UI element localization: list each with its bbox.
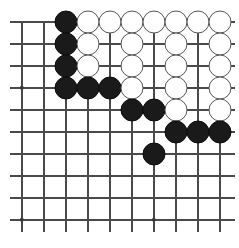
white-stone: [165, 77, 188, 100]
star-point: [20, 218, 24, 222]
white-stone: [209, 11, 232, 34]
black-stone: [143, 99, 166, 122]
white-stone: [99, 11, 122, 34]
black-stone: [55, 33, 78, 56]
white-stone: [121, 55, 144, 78]
black-stone: [209, 121, 232, 144]
black-stone: [165, 121, 188, 144]
white-stone: [209, 55, 232, 78]
black-stone: [187, 121, 210, 144]
star-point: [152, 218, 156, 222]
black-stone: [99, 77, 122, 100]
white-stone: [165, 11, 188, 34]
goban-grid: [0, 0, 239, 248]
grid-line-vertical: [153, 22, 155, 232]
white-stone: [165, 99, 188, 122]
black-stone: [55, 11, 78, 34]
black-stone: [55, 55, 78, 78]
white-stone: [121, 33, 144, 56]
white-stone: [143, 11, 166, 34]
white-stone: [209, 99, 232, 122]
white-stone: [77, 11, 100, 34]
black-stone: [55, 77, 78, 100]
grid-line-vertical: [21, 22, 23, 232]
black-stone: [121, 99, 144, 122]
white-stone: [165, 33, 188, 56]
white-stone: [77, 55, 100, 78]
white-stone: [209, 33, 232, 56]
white-stone: [77, 33, 100, 56]
grid-line-vertical: [109, 22, 111, 232]
white-stone: [209, 77, 232, 100]
white-stone: [121, 11, 144, 34]
white-stone: [121, 77, 144, 100]
black-stone: [143, 143, 166, 166]
go-board-diagram: [0, 0, 239, 248]
grid-line-vertical: [43, 22, 45, 232]
white-stone: [165, 55, 188, 78]
black-stone: [77, 77, 100, 100]
white-stone: [187, 11, 210, 34]
star-point: [20, 86, 24, 90]
